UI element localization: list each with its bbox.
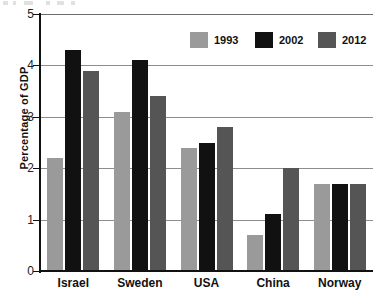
y-tick-label-2: 2 — [8, 161, 34, 175]
legend-label-1993: 1993 — [214, 34, 238, 46]
tick-mark-0 — [33, 271, 40, 272]
bar-israel-2002 — [65, 50, 81, 271]
bar-norway-1993 — [314, 184, 330, 271]
bar-china-2012 — [283, 168, 299, 271]
y-tick-label-1: 1 — [8, 213, 34, 227]
tick-mark-3 — [33, 117, 40, 118]
legend-swatch-2012 — [318, 32, 336, 48]
bar-china-1993 — [247, 235, 263, 271]
bar-sweden-2012 — [150, 96, 166, 271]
y-axis-line — [39, 13, 41, 273]
legend-swatch-2002 — [255, 32, 273, 48]
legend-item-2012: 2012 — [318, 32, 366, 48]
y-axis-tick-labels: 012345 — [6, 0, 34, 294]
bar-sweden-2002 — [132, 60, 148, 271]
plot-area — [40, 14, 373, 271]
tick-mark-2 — [33, 168, 40, 169]
bar-israel-2012 — [83, 71, 99, 271]
y-tick-label-0: 0 — [8, 264, 34, 278]
legend-label-2002: 2002 — [279, 34, 303, 46]
bar-group-norway — [314, 14, 366, 271]
bar-group-usa — [181, 14, 233, 271]
legend-swatch-1993 — [190, 32, 208, 48]
legend-label-2012: 2012 — [342, 34, 366, 46]
y-tick-label-3: 3 — [8, 110, 34, 124]
bar-chart-figure: Percentage of GDP 012345 199320022012 Is… — [0, 0, 375, 294]
y-tick-label-5: 5 — [8, 7, 34, 21]
x-axis-category-labels: IsraelSwedenUSAChinaNorway — [40, 276, 373, 294]
tick-mark-5 — [33, 14, 40, 15]
bar-norway-2002 — [332, 184, 348, 271]
bar-usa-2002 — [199, 143, 215, 272]
bar-sweden-1993 — [114, 112, 130, 271]
bar-norway-2012 — [350, 184, 366, 271]
clipped-top-artifact — [0, 0, 375, 5]
category-label-israel: Israel — [40, 276, 107, 290]
category-label-china: China — [240, 276, 307, 290]
legend-item-2002: 2002 — [255, 32, 303, 48]
bar-group-china — [247, 14, 299, 271]
bar-china-2002 — [265, 214, 281, 271]
bar-israel-1993 — [47, 158, 63, 271]
bars-layer — [40, 14, 373, 271]
category-label-usa: USA — [173, 276, 240, 290]
x-axis-line — [39, 270, 373, 272]
bar-usa-1993 — [181, 148, 197, 271]
bar-group-israel — [47, 14, 99, 271]
tick-mark-4 — [33, 65, 40, 66]
category-label-norway: Norway — [306, 276, 373, 290]
legend-item-1993: 1993 — [190, 32, 238, 48]
category-label-sweden: Sweden — [107, 276, 174, 290]
y-tick-label-4: 4 — [8, 58, 34, 72]
tick-mark-1 — [33, 220, 40, 221]
bar-group-sweden — [114, 14, 166, 271]
bar-usa-2012 — [217, 127, 233, 271]
